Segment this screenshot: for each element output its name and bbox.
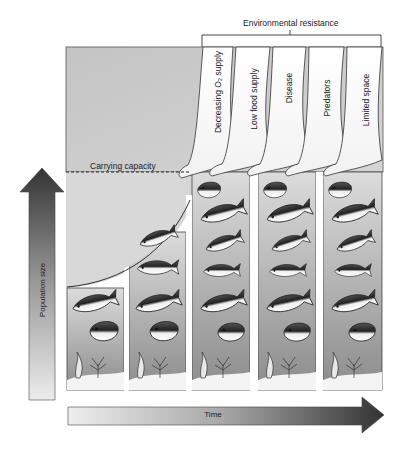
- factor-label-decreasing-o2: Decreasing O₂ supply: [213, 51, 223, 133]
- environmental-resistance-label: Environmental resistance: [243, 18, 338, 28]
- resistance-hands: [179, 47, 382, 178]
- factor-label-predators: Predators: [322, 80, 332, 117]
- factor-label-disease: Disease: [284, 73, 294, 104]
- factor-label-low-food-supply: Low food supply: [249, 68, 259, 129]
- time-arrow: [68, 397, 384, 433]
- time-label: Time: [204, 410, 221, 419]
- factor-label-limited-space: Limited space: [361, 74, 371, 126]
- diagram-canvas: [0, 0, 405, 457]
- carrying-capacity-label: Carrying capacity: [90, 161, 156, 171]
- population-size-label: Population size: [38, 263, 47, 317]
- environmental-resistance-bracket: [202, 30, 381, 47]
